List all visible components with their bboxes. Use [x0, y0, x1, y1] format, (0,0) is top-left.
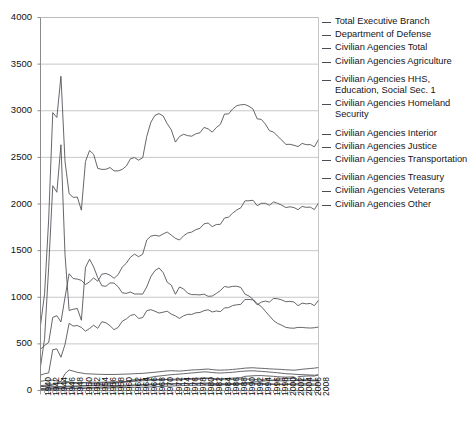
series-line: [41, 200, 319, 349]
legend-line-swatch: [322, 80, 331, 81]
legend-item-label: Civilian Agencies Transportation: [335, 154, 467, 165]
legend-line-swatch: [322, 191, 331, 192]
y-axis-tick-label: 2000: [2, 199, 32, 209]
legend-item-label: Civilian Agencies Agriculture: [335, 56, 452, 67]
legend-line-swatch: [322, 104, 331, 105]
legend-item-label: Civilian Agencies Justice: [335, 141, 437, 152]
y-axis-tick-label: 4000: [2, 12, 32, 22]
series-line: [41, 145, 319, 367]
chart-container: 40003500300025002000150010005000 1940194…: [0, 0, 469, 431]
legend-item-label: Civilian Agencies HHS, Education, Social…: [335, 74, 436, 96]
y-axis-tick-label: 500: [2, 338, 32, 348]
legend-item[interactable]: Civilian Agencies HHS, Education, Social…: [322, 74, 469, 96]
legend-line-swatch: [322, 178, 331, 179]
legend-line-swatch: [322, 22, 331, 23]
legend-item-label: Civilian Agencies Interior: [335, 128, 437, 139]
y-axis-tick-label: 1000: [2, 292, 32, 302]
legend-item-label: Civilian Agencies Veterans: [335, 185, 445, 196]
y-axis-tick-label: 1500: [2, 245, 32, 255]
legend-item[interactable]: Civilian Agencies Treasury: [322, 172, 469, 183]
legend-item[interactable]: Civilian Agencies Homeland Security: [322, 98, 469, 120]
y-axis-tick-label: 3000: [2, 105, 32, 115]
legend-item[interactable]: Civilian Agencies Justice: [322, 141, 469, 152]
legend-line-swatch: [322, 205, 331, 206]
legend-line-swatch: [322, 62, 331, 63]
legend-item-label: Department of Defense: [335, 29, 431, 40]
y-axis-tick-label: 0: [2, 385, 32, 395]
legend-item[interactable]: Civilian Agencies Agriculture: [322, 56, 469, 67]
legend-line-swatch: [322, 134, 331, 135]
legend-item[interactable]: Civilian Agencies Transportation: [322, 154, 469, 165]
y-axis-tick-label: 2500: [2, 152, 32, 162]
legend-item[interactable]: Civilian Agencies Veterans: [322, 185, 469, 196]
chart-legend: Total Executive BranchDepartment of Defe…: [322, 16, 469, 212]
legend-line-swatch: [322, 48, 331, 49]
legend-item-label: Civilian Agencies Total: [335, 42, 427, 53]
legend-item-label: Civilian Agencies Treasury: [335, 172, 444, 183]
legend-line-swatch: [322, 160, 331, 161]
legend-item-label: Civilian Agencies Homeland Security: [335, 98, 450, 120]
y-axis-tick-label: 3500: [2, 59, 32, 69]
legend-item[interactable]: Total Executive Branch: [322, 16, 469, 27]
legend-line-swatch: [322, 35, 331, 36]
series-line: [41, 76, 319, 325]
legend-item-label: Total Executive Branch: [335, 16, 430, 27]
legend-item[interactable]: Civilian Agencies Total: [322, 42, 469, 53]
legend-line-swatch: [322, 147, 331, 148]
legend-item-label: Civilian Agencies Other: [335, 199, 431, 210]
legend-item[interactable]: Civilian Agencies Other: [322, 199, 469, 210]
legend-item[interactable]: Civilian Agencies Interior: [322, 128, 469, 139]
data-series-group: [41, 76, 319, 389]
legend-item[interactable]: Department of Defense: [322, 29, 469, 40]
x-axis-tick-label: 2008: [322, 377, 331, 396]
